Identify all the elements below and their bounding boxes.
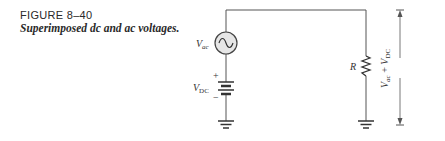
resistor-icon	[362, 56, 370, 76]
circuit-diagram: Vac + VDC − R Vac + VDC	[0, 0, 445, 141]
voltage-measure-arrow	[396, 10, 404, 125]
vdc-label: VDC	[193, 82, 209, 95]
svg-text:Vac + VDC: Vac + VDC	[379, 48, 392, 88]
ac-source-icon	[215, 32, 237, 54]
output-voltage-label-rotated: Vac + VDC	[379, 48, 392, 88]
ground-icon-left	[218, 121, 234, 128]
ground-icon-right	[358, 121, 374, 128]
dc-plus-label: +	[213, 70, 219, 81]
resistor-label: R	[349, 61, 356, 72]
top-wire	[226, 10, 366, 56]
vac-label: Vac	[196, 38, 210, 51]
dc-minus-label: −	[213, 92, 219, 103]
battery-icon	[218, 82, 234, 94]
